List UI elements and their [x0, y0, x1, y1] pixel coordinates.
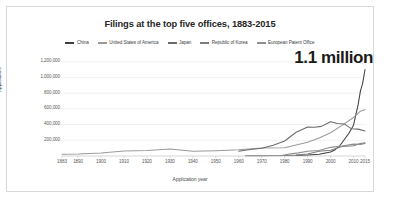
- legend-label-republic-of-korea: Republic of Korea: [212, 41, 248, 46]
- y-axis-tick-label-3: 800,000: [20, 91, 60, 96]
- series-line-united-states-of-america: [62, 110, 365, 155]
- legend-label-united-states-of-america: United States of America: [109, 41, 158, 46]
- y-axis-tick-label-2: 600,000: [20, 106, 60, 111]
- legend-swatch-china: [65, 42, 74, 44]
- y-axis-tick-label-1: 400,000: [20, 122, 60, 127]
- legend-swatch-japan: [168, 42, 177, 44]
- plot-area: [62, 57, 365, 156]
- x-axis-tick-label-3: 1910: [119, 160, 129, 165]
- x-axis-tick-label-8: 1960: [234, 160, 244, 165]
- y-axis-tick-label-4: 1,000,000: [20, 75, 60, 80]
- x-axis-tick-label-13: 2010: [349, 160, 359, 165]
- x-axis-tick-label-2: 1900: [96, 160, 106, 165]
- x-axis-tick-label-4: 1920: [142, 160, 152, 165]
- legend-item-japan[interactable]: Japan: [168, 41, 192, 46]
- y-axis-tick-label-5: 1,200,000: [20, 59, 60, 64]
- x-axis-tick-label-7: 1950: [211, 160, 221, 165]
- legend-swatch-republic-of-korea: [200, 42, 209, 44]
- legend-label-china: China: [77, 41, 89, 46]
- x-axis-tick-label-5: 1930: [165, 160, 175, 165]
- legend-item-united-states-of-america[interactable]: United States of America: [98, 41, 159, 46]
- y-axis-tick-labels: 200,000400,000600,000800,0001,000,0001,2…: [20, 50, 60, 163]
- x-axis-tick-label-6: 1940: [188, 160, 198, 165]
- callout-annotation: 1.1 million: [294, 49, 373, 66]
- legend-swatch-united-states-of-america: [98, 42, 107, 44]
- legend-swatch-european-patent-office: [257, 42, 266, 44]
- legend-label-european-patent-office: European Patent Office: [268, 41, 315, 46]
- legend-item-european-patent-office[interactable]: European Patent Office: [257, 41, 315, 46]
- x-axis-tick-label-1: 1890: [73, 160, 83, 165]
- x-axis-tick-label-0: 1883: [57, 160, 67, 165]
- y-axis-title: Applications: [0, 67, 2, 92]
- chart-legend: China United States of America Japan Rep…: [6, 38, 374, 48]
- x-axis-tick-label-11: 1990: [303, 160, 313, 165]
- legend-item-republic-of-korea[interactable]: Republic of Korea: [200, 41, 247, 46]
- x-axis-tick-label-9: 1970: [257, 160, 267, 165]
- x-axis-tick-labels: 1883189019001910192019301940195019601970…: [40, 160, 385, 170]
- y-axis-tick-label-0: 200,000: [20, 138, 60, 143]
- plot-svg: [62, 57, 365, 156]
- x-axis-tick-label-10: 1980: [280, 160, 290, 165]
- x-axis-tick-label-12: 2000: [326, 160, 336, 165]
- legend-item-china[interactable]: China: [65, 41, 88, 46]
- chart-title: Filings at the top five offices, 1883-20…: [6, 19, 374, 29]
- x-axis-tick-label-14: 2015: [360, 160, 370, 165]
- legend-label-japan: Japan: [179, 41, 191, 46]
- x-axis-title: Application year: [6, 176, 374, 182]
- chart-figure: Filings at the top five offices, 1883-20…: [0, 0, 401, 207]
